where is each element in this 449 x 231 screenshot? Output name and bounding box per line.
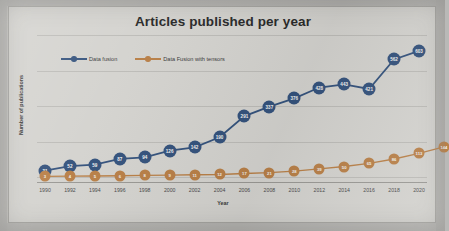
data-point-marker: 337 [263,100,276,113]
data-point-marker: 12 [214,169,225,180]
data-point-marker: 142 [188,141,201,154]
page-edge-bottom [0,223,445,231]
x-tick-label: 2006 [239,187,251,193]
plot-area: 3152598794126142190291337376428443421562… [37,35,427,183]
x-tick-label: 1998 [139,187,151,193]
data-point-marker: 428 [313,81,326,94]
page-edge-left [0,0,7,231]
data-point-marker: 28 [289,166,300,177]
data-point-marker: 65 [364,158,375,169]
data-point-marker: 86 [389,154,400,165]
data-point-marker: 376 [288,92,301,105]
data-point-marker: 87 [113,152,126,165]
x-tick-label: 1994 [89,187,101,193]
data-point-marker: 113 [414,148,425,159]
x-tick-label: 1990 [39,187,51,193]
data-point-marker: 421 [363,82,376,95]
data-point-marker: 5 [89,170,100,181]
x-tick-label: 2008 [264,187,276,193]
page-edge-right [436,0,445,231]
x-axis-line [37,182,427,183]
data-point-marker: 562 [388,53,401,66]
data-point-marker: 6 [114,170,125,181]
data-point-marker: 144 [438,141,449,152]
y-axis-title: Number of publications [18,57,24,153]
x-tick-label: 1992 [64,187,76,193]
data-point-marker: 21 [264,167,275,178]
x-axis-tick-labels: 1990199219941996199820002002200420062008… [37,187,427,197]
data-point-marker: 126 [163,144,176,157]
data-point-marker: 59 [88,158,101,171]
x-tick-label: 2014 [338,187,350,193]
x-tick-label: 2000 [164,187,176,193]
x-tick-label: 2020 [413,187,425,193]
data-point-marker: 3 [40,171,51,182]
data-point-marker: 8 [139,170,150,181]
data-point-marker: 4 [64,171,75,182]
data-point-marker: 603 [413,44,426,57]
data-point-marker: 39 [314,163,325,174]
x-axis-title: Year [9,200,437,206]
x-tick-label: 2010 [289,187,301,193]
x-tick-label: 2002 [189,187,201,193]
chart-panel: Articles published per year Data fusion … [8,6,436,223]
data-point-marker: 9 [164,170,175,181]
chart-title: Articles published per year [9,14,437,29]
data-point-marker: 94 [138,151,151,164]
data-point-marker: 17 [239,168,250,179]
x-tick-label: 2004 [214,187,226,193]
data-point-marker: 50 [339,161,350,172]
series-line-0 [45,51,419,171]
x-tick-label: 2018 [388,187,400,193]
x-tick-label: 2016 [363,187,375,193]
x-tick-label: 2012 [313,187,325,193]
data-point-marker: 291 [238,110,251,123]
data-point-marker: 11 [189,169,200,180]
data-point-marker: 443 [338,78,351,91]
x-tick-label: 1996 [114,187,126,193]
data-point-marker: 190 [213,131,226,144]
